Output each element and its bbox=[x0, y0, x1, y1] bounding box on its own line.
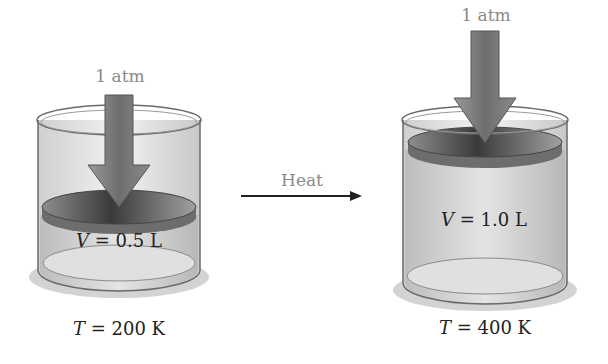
charles-law-diagram: 1 atm V = 0.5 L T = 200 K Heat 1 atm V =… bbox=[0, 0, 608, 364]
right-temperature-label: T = 400 K bbox=[439, 317, 531, 338]
temperature-value: = 200 K bbox=[85, 318, 165, 339]
left-pressure-label: 1 atm bbox=[95, 66, 144, 86]
left-volume-label: V = 0.5 L bbox=[76, 230, 162, 251]
heat-arrow bbox=[241, 191, 362, 201]
volume-variable: V bbox=[441, 209, 454, 230]
volume-value: = 1.0 L bbox=[454, 209, 527, 230]
temperature-variable: T bbox=[439, 317, 451, 338]
right-pressure-label: 1 atm bbox=[461, 5, 510, 25]
temperature-value: = 400 K bbox=[451, 317, 531, 338]
temperature-variable: T bbox=[73, 318, 85, 339]
volume-variable: V bbox=[76, 230, 89, 251]
heat-label: Heat bbox=[281, 170, 323, 190]
volume-value: = 0.5 L bbox=[89, 230, 162, 251]
left-temperature-label: T = 200 K bbox=[73, 318, 165, 339]
right-volume-label: V = 1.0 L bbox=[441, 209, 527, 230]
